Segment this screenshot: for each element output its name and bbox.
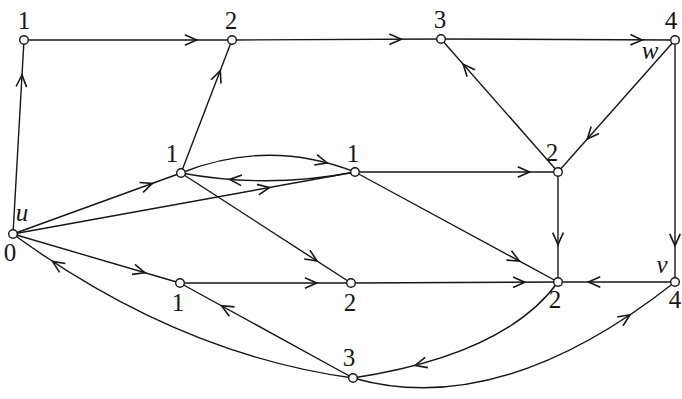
arrowhead-icon xyxy=(507,251,520,261)
arrowhead-icon xyxy=(222,306,235,316)
edge-bottom-3-to-v xyxy=(353,282,675,388)
label-bottom-1-value: 1 xyxy=(172,289,185,316)
arrowhead-icon xyxy=(53,261,66,272)
edge-u-to-bottom-1 xyxy=(13,234,180,283)
node-mid-2 xyxy=(554,168,563,177)
node-w xyxy=(671,36,680,45)
graph-figure: 1234w112u0122v43 xyxy=(0,0,682,399)
label-v-value: 4 xyxy=(669,286,682,313)
label-top-1-value: 1 xyxy=(18,7,31,34)
label-u-name: u xyxy=(16,199,29,226)
edge-top-2-to-top-3 xyxy=(232,39,441,40)
edge-mid-1-right-to-bottom-2-right xyxy=(355,172,558,282)
node-bottom-3 xyxy=(349,374,358,383)
label-mid-1-right-value: 1 xyxy=(347,140,360,167)
node-bottom-2-right xyxy=(554,278,563,287)
label-bottom-3-value: 3 xyxy=(343,344,356,371)
node-top-1 xyxy=(20,36,29,45)
node-u xyxy=(9,230,18,239)
label-mid-1-left-value: 1 xyxy=(166,140,179,167)
arrowhead-icon xyxy=(304,250,317,261)
node-bottom-1 xyxy=(176,279,185,288)
node-mid-1-right xyxy=(351,168,360,177)
edge-mid-1-left-to-mid-1-right xyxy=(181,155,355,173)
edge-u-to-mid-1-right xyxy=(13,172,355,234)
node-mid-1-left xyxy=(177,169,186,178)
label-top-3-value: 3 xyxy=(434,6,447,33)
node-bottom-2 xyxy=(347,279,356,288)
label-bottom-2-value: 2 xyxy=(344,289,357,316)
edge-bottom-2-to-bottom-2-right xyxy=(351,282,558,283)
edge-bottom-2-right-to-bottom-3 xyxy=(353,282,558,378)
edge-u-to-mid-1-left xyxy=(13,173,181,234)
label-mid-2-value: 2 xyxy=(546,139,559,166)
label-top-2-value: 2 xyxy=(225,7,238,34)
node-top-2 xyxy=(228,36,237,45)
edge-bottom-3-to-bottom-1 xyxy=(180,283,353,378)
label-v-name: v xyxy=(656,251,668,278)
edge-mid-2-to-top-3 xyxy=(441,39,558,172)
graph-canvas: 1234w112u0122v43 xyxy=(0,0,682,399)
label-w-value: 4 xyxy=(665,7,678,34)
node-v xyxy=(671,278,680,287)
edge-mid-1-left-to-top-2 xyxy=(181,40,232,173)
node-top-3 xyxy=(437,35,446,44)
label-w-name: w xyxy=(642,37,659,64)
label-u-value: 0 xyxy=(4,239,17,266)
arrowhead-icon xyxy=(617,315,630,326)
label-bottom-2-right-value: 2 xyxy=(549,286,562,313)
